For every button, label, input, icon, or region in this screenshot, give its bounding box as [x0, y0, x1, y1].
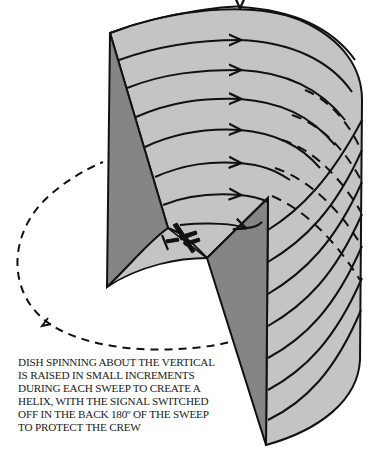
- caption-line: HELIX, WITH THE SIGNAL SWITCHED: [18, 395, 268, 408]
- caption-line: DURING EACH SWEEP TO CREATE A: [18, 382, 268, 395]
- caption: DISH SPINNING ABOUT THE VERTICAL IS RAIS…: [18, 356, 268, 434]
- caption-line: TO PROTECT THE CREW: [18, 421, 268, 434]
- caption-line: OFF IN THE BACK 180º OF THE SWEEP: [18, 408, 268, 421]
- caption-line: DISH SPINNING ABOUT THE VERTICAL: [18, 356, 268, 369]
- caption-line: IS RAISED IN SMALL INCREMENTS: [18, 369, 268, 382]
